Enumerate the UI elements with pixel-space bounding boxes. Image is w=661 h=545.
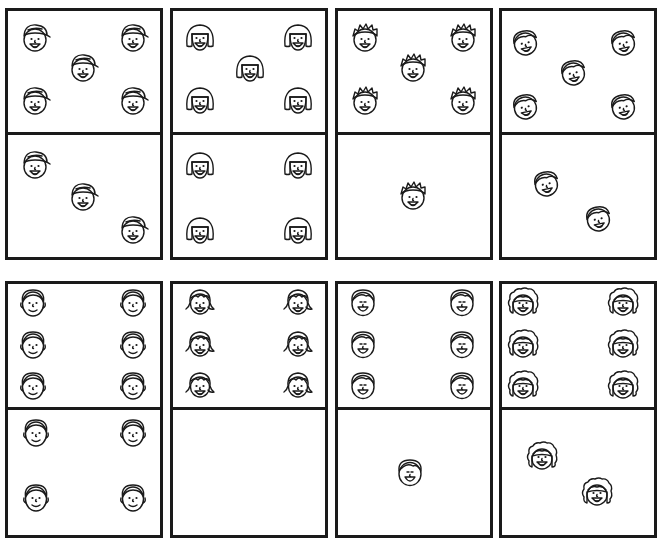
boy-spiky-icon [446, 84, 480, 118]
domino-4 [499, 8, 657, 260]
boy-laughing-icon [445, 368, 479, 402]
boy-cap-icon [116, 21, 150, 55]
boy-tilted-icon [556, 55, 590, 89]
boy-short-hair-icon [16, 327, 50, 361]
girl-bob-icon [281, 20, 315, 54]
boy-tilted-icon [581, 201, 615, 235]
girl-curly-icon [506, 368, 540, 402]
boy-spiky-icon [396, 179, 430, 213]
girl-curly-icon [580, 475, 614, 509]
boy-spiky-icon [348, 21, 382, 55]
girl-curly-icon [606, 327, 640, 361]
boy-short-hair-icon [16, 285, 50, 319]
girl-flip-hair-icon [183, 368, 217, 402]
girl-flip-hair-icon [281, 285, 315, 319]
boy-cap-icon [116, 213, 150, 247]
domino-1 [5, 8, 163, 260]
boy-tilted-icon [606, 89, 640, 123]
boy-short-hair-icon [16, 368, 50, 402]
boy-short-hair-icon [19, 415, 53, 449]
boy-tilted-icon [508, 25, 542, 59]
boy-cap-icon [66, 51, 100, 85]
domino-5 [5, 281, 163, 538]
boy-cap-icon [66, 180, 100, 214]
girl-bob-icon [233, 51, 267, 85]
boy-cap-icon [18, 148, 52, 182]
girl-bob-icon [281, 83, 315, 117]
boy-short-hair-icon [116, 415, 150, 449]
domino-2 [170, 8, 328, 260]
boy-tilted-icon [529, 166, 563, 200]
boy-short-hair-icon [116, 480, 150, 514]
boy-laughing-icon [445, 327, 479, 361]
girl-bob-icon [281, 213, 315, 247]
boy-tilted-icon [508, 89, 542, 123]
boy-laughing-icon [445, 285, 479, 319]
girl-flip-hair-icon [281, 327, 315, 361]
domino-8 [499, 281, 657, 538]
boy-spiky-icon [348, 84, 382, 118]
boy-cap-icon [116, 84, 150, 118]
domino-3 [335, 8, 493, 260]
boy-spiky-icon [446, 21, 480, 55]
girl-flip-hair-icon [281, 368, 315, 402]
girl-bob-icon [183, 148, 217, 182]
boy-short-hair-icon [116, 285, 150, 319]
girl-flip-hair-icon [183, 285, 217, 319]
boy-laughing-icon [393, 455, 427, 489]
girl-curly-icon [506, 285, 540, 319]
girl-curly-icon [606, 368, 640, 402]
boy-tilted-icon [606, 25, 640, 59]
girl-curly-icon [525, 439, 559, 473]
girl-curly-icon [506, 327, 540, 361]
boy-short-hair-icon [116, 327, 150, 361]
domino-half-bottom [173, 408, 325, 535]
girl-bob-icon [281, 148, 315, 182]
domino-6 [170, 281, 328, 538]
girl-bob-icon [183, 20, 217, 54]
boy-cap-icon [18, 84, 52, 118]
boy-spiky-icon [396, 51, 430, 85]
boy-laughing-icon [346, 368, 380, 402]
domino-half-bottom [502, 133, 654, 257]
girl-bob-icon [183, 213, 217, 247]
domino-7 [335, 281, 493, 538]
boy-short-hair-icon [116, 368, 150, 402]
girl-bob-icon [183, 83, 217, 117]
boy-laughing-icon [346, 327, 380, 361]
girl-flip-hair-icon [183, 327, 217, 361]
boy-short-hair-icon [19, 480, 53, 514]
boy-laughing-icon [346, 285, 380, 319]
girl-curly-icon [606, 285, 640, 319]
boy-cap-icon [18, 21, 52, 55]
